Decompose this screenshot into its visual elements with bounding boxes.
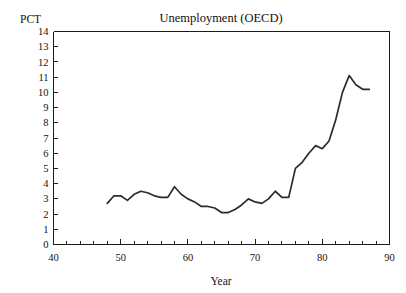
x-tick-label: 60 bbox=[183, 252, 194, 263]
x-tick-label: 50 bbox=[115, 252, 126, 263]
y-tick-label: 8 bbox=[43, 117, 48, 128]
unemployment-line-chart: Unemployment (OECD) PCT Year 01234567891… bbox=[0, 0, 406, 293]
y-tick-label: 5 bbox=[43, 163, 48, 174]
x-tick-label: 40 bbox=[48, 252, 59, 263]
series-line bbox=[107, 76, 369, 213]
x-tick-label: 80 bbox=[317, 252, 328, 263]
y-tick-label: 12 bbox=[38, 57, 49, 68]
y-tick-label: 3 bbox=[43, 193, 48, 204]
y-tick-label: 10 bbox=[38, 87, 49, 98]
data-series-group bbox=[107, 76, 369, 213]
y-tick-label: 1 bbox=[43, 224, 48, 235]
y-axis-tick-labels: 01234567891011121314 bbox=[38, 26, 49, 250]
x-tick-label: 90 bbox=[384, 252, 395, 263]
y-tick-label: 14 bbox=[38, 26, 49, 37]
x-axis-label: Year bbox=[210, 275, 231, 287]
y-tick-label: 4 bbox=[43, 178, 49, 189]
chart-title: Unemployment (OECD) bbox=[159, 11, 282, 25]
x-axis-ticks bbox=[54, 239, 390, 245]
x-tick-label: 70 bbox=[250, 252, 261, 263]
y-tick-label: 6 bbox=[43, 148, 48, 159]
x-axis-tick-labels: 405060708090 bbox=[48, 252, 395, 263]
y-axis-label: PCT bbox=[20, 13, 41, 25]
y-tick-label: 7 bbox=[43, 133, 48, 144]
y-tick-label: 2 bbox=[43, 209, 48, 220]
y-tick-label: 11 bbox=[38, 72, 48, 83]
y-axis-ticks bbox=[54, 32, 58, 245]
y-tick-label: 9 bbox=[43, 102, 48, 113]
chart-figure: Unemployment (OECD) PCT Year 01234567891… bbox=[0, 0, 406, 293]
y-tick-label: 13 bbox=[38, 41, 49, 52]
y-tick-label: 0 bbox=[43, 239, 48, 250]
